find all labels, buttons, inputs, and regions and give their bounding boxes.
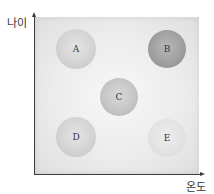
y-axis-arrow-icon	[32, 12, 36, 17]
circle-a: A	[56, 29, 96, 69]
circle-c: C	[100, 78, 138, 116]
circle-label: D	[72, 132, 79, 142]
circle-e: E	[148, 119, 186, 157]
circle-d: D	[56, 117, 96, 157]
x-axis-arrow-icon	[200, 172, 205, 176]
y-axis-line	[34, 15, 35, 175]
circle-label: B	[164, 44, 171, 54]
x-axis-label: 온도	[186, 178, 206, 194]
circle-label: C	[116, 92, 123, 102]
circle-b: B	[148, 30, 186, 68]
y-axis-label: 나이	[7, 14, 27, 30]
circle-label: E	[164, 133, 171, 143]
circle-label: A	[73, 44, 80, 54]
x-axis-line	[34, 174, 201, 175]
